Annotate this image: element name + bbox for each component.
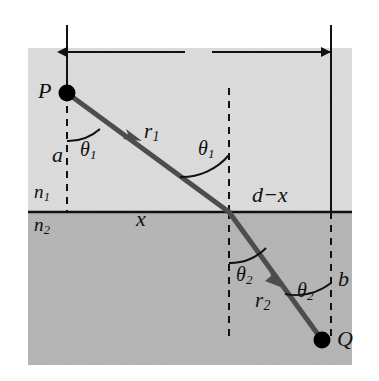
refraction-diagram-figure: P Q a b x d−x n1 n2 r1 r2 θ1 θ1 θ2 θ2 [0, 0, 379, 381]
medium-1-region [28, 48, 352, 212]
target-point-label: Q [337, 328, 353, 350]
diagram-canvas [0, 0, 379, 381]
angle-theta2-target-label: θ2 [297, 280, 314, 302]
distance-d-minus-x-label: d−x [252, 184, 288, 206]
angle-theta1-interface-label: θ1 [198, 138, 215, 160]
angle-theta2-interface-label: θ2 [236, 264, 253, 286]
refractive-index-n2-label: n2 [34, 215, 50, 236]
angle-theta1-source-label: θ1 [80, 139, 97, 161]
source-point-dot [59, 85, 76, 102]
height-b-label: b [338, 268, 349, 290]
ray-r2-label: r2 [255, 290, 270, 313]
height-a-label: a [52, 144, 63, 166]
refractive-index-n1-label: n1 [34, 182, 50, 203]
target-point-dot [314, 332, 331, 349]
ray-r1-label: r1 [144, 121, 159, 144]
distance-x-label: x [136, 208, 146, 230]
source-point-label: P [38, 80, 51, 102]
